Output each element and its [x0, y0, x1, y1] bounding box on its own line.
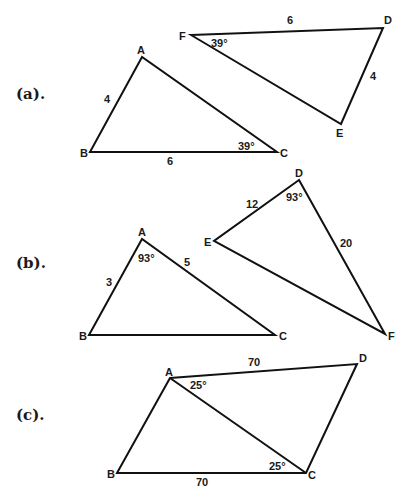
- quadrilateral-shape: [117, 364, 357, 473]
- vertex-label-d: D: [359, 352, 367, 364]
- vertex-label-f: F: [179, 30, 186, 42]
- side-label-ed: 12: [246, 198, 258, 210]
- angle-label-c: 39°: [238, 140, 255, 152]
- side-label-bc: 6: [167, 155, 173, 167]
- side-label-df: 20: [340, 237, 352, 249]
- part-b: (b). A B C 3 5 93° D E F 12 20 93°: [16, 167, 395, 342]
- vertex-label-b: B: [107, 468, 115, 480]
- side-label-bc: 70: [196, 476, 208, 488]
- diagonal-ac: [170, 378, 306, 473]
- side-label-ad: 70: [248, 356, 260, 368]
- angle-label-bca: 25°: [269, 460, 286, 472]
- vertex-label-a: A: [137, 44, 145, 56]
- part-a: (a). A B C 4 6 39° F D E 6 4 39°: [16, 14, 392, 167]
- vertex-label-a: A: [165, 366, 173, 378]
- side-label-ab: 4: [104, 93, 111, 105]
- triangle-b-abc-shape: [89, 239, 275, 335]
- vertex-label-f: F: [388, 330, 395, 342]
- vertex-label-e: E: [204, 236, 211, 248]
- quadrilateral-c-abcd: A B C D 70 70 25° 25°: [107, 352, 367, 488]
- vertex-label-c: C: [308, 469, 316, 481]
- triangle-b-def: D E F 12 20 93°: [204, 167, 395, 342]
- side-label-de: 4: [370, 70, 377, 82]
- triangle-b-def-shape: [214, 180, 385, 334]
- triangle-b-abc: A B C 3 5 93°: [79, 226, 287, 342]
- part-c-label: (c).: [16, 406, 45, 424]
- vertex-label-b: B: [80, 147, 88, 159]
- vertex-label-a: A: [138, 226, 146, 238]
- part-b-label: (b).: [16, 254, 46, 272]
- vertex-label-d: D: [295, 167, 303, 179]
- side-label-fd: 6: [287, 14, 293, 26]
- angle-label-a: 93°: [138, 252, 155, 264]
- vertex-label-c: C: [279, 330, 287, 342]
- part-a-label: (a).: [16, 85, 45, 103]
- vertex-label-c: C: [280, 147, 288, 159]
- angle-label-d: 93°: [286, 191, 303, 203]
- angle-label-dac: 25°: [190, 379, 207, 391]
- vertex-label-b: B: [79, 330, 87, 342]
- vertex-label-d: D: [384, 14, 392, 26]
- geometry-figure: (a). A B C 4 6 39° F D E 6 4 39° (b). A: [0, 0, 410, 499]
- triangle-a-abc: A B C 4 6 39°: [80, 44, 288, 167]
- part-c: (c). A B C D 70 70 25° 25°: [16, 352, 367, 488]
- triangle-a-abc-shape: [90, 57, 277, 152]
- side-label-ac: 5: [184, 256, 190, 268]
- side-label-ab: 3: [106, 276, 112, 288]
- triangle-a-fde: F D E 6 4 39°: [179, 14, 392, 139]
- vertex-label-e: E: [336, 127, 343, 139]
- angle-label-f: 39°: [211, 37, 228, 49]
